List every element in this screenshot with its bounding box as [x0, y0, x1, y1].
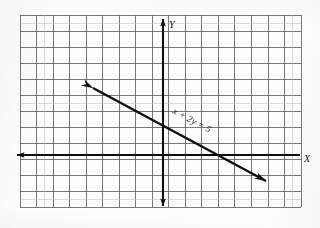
y-axis-label: Y — [169, 19, 176, 30]
equation-label: x + 2y = 5 — [170, 105, 213, 134]
x-axis-label: X — [303, 153, 311, 164]
figure-canvas: Y X x + 2y = 5 — [0, 0, 320, 228]
coordinate-graph: Y X x + 2y = 5 — [0, 0, 320, 228]
